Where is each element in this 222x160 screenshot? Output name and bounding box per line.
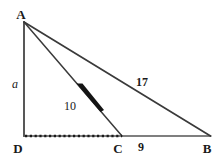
vertex-label-d: D	[13, 142, 22, 155]
measure-label-10: 10	[64, 100, 76, 112]
measure-label-9: 9	[138, 141, 144, 153]
segment-ab	[24, 22, 211, 136]
segment-ac	[24, 22, 122, 136]
diagram-canvas	[0, 0, 222, 160]
segment-ac-emphasis	[77, 84, 105, 113]
measure-label-a: a	[12, 78, 18, 90]
measure-label-17: 17	[136, 76, 148, 88]
geometry-diagram: A D C B a 10 17 9	[0, 0, 222, 160]
vertex-label-a: A	[16, 8, 25, 21]
vertex-label-c: C	[113, 142, 122, 155]
vertex-label-b: B	[203, 142, 212, 155]
